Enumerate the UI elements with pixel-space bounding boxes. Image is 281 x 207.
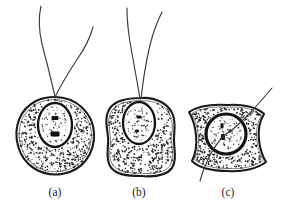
stipple-dot bbox=[54, 124, 55, 125]
stipple-dot bbox=[115, 119, 116, 120]
stipple-dot bbox=[128, 122, 129, 123]
stipple-dot bbox=[60, 170, 61, 171]
stipple-dot bbox=[218, 126, 219, 127]
stipple-dot bbox=[119, 135, 120, 136]
stipple-dot bbox=[57, 128, 58, 129]
stipple-dot bbox=[66, 163, 67, 164]
stipple-dot bbox=[231, 158, 233, 160]
stipple-dot bbox=[151, 165, 153, 167]
stipple-dot bbox=[169, 132, 170, 133]
stipple-dot bbox=[116, 136, 117, 137]
stipple-dot bbox=[86, 148, 87, 149]
stipple-dot bbox=[235, 131, 236, 132]
stipple-dot bbox=[24, 144, 25, 145]
stipple-dot bbox=[167, 147, 169, 149]
stipple-dot bbox=[112, 112, 113, 113]
stipple-dot bbox=[160, 152, 162, 154]
stipple-dot bbox=[75, 130, 77, 132]
stipple-dot bbox=[235, 125, 236, 126]
stipple-dot bbox=[240, 130, 241, 131]
stipple-dot bbox=[158, 157, 159, 158]
stipple-dot bbox=[210, 130, 211, 131]
stipple-dot bbox=[246, 122, 247, 123]
stipple-dot bbox=[24, 146, 25, 147]
stipple-dot bbox=[241, 130, 242, 131]
stipple-dot bbox=[83, 126, 85, 128]
stipple-dot bbox=[247, 123, 249, 125]
stipple-dot bbox=[171, 126, 172, 127]
stipple-dot bbox=[74, 112, 76, 114]
stipple-dot bbox=[121, 111, 123, 113]
stipple-dot bbox=[77, 126, 78, 127]
stipple-dot bbox=[62, 152, 64, 154]
stipple-dot bbox=[78, 132, 79, 133]
stipple-dot bbox=[210, 110, 211, 111]
stipple-dot bbox=[31, 124, 33, 126]
stipple-dot bbox=[80, 129, 82, 131]
stipple-dot bbox=[134, 163, 135, 164]
stipple-dot bbox=[145, 126, 147, 128]
stipple-dot bbox=[113, 139, 114, 140]
stipple-dot bbox=[205, 117, 206, 118]
stipple-dot bbox=[131, 150, 133, 152]
stipple-dot bbox=[238, 144, 239, 145]
stipple-dot bbox=[52, 138, 53, 139]
stipple-dot bbox=[64, 135, 66, 137]
stipple-dot bbox=[224, 108, 225, 109]
stipple-dot bbox=[154, 167, 156, 169]
stipple-dot bbox=[119, 122, 121, 124]
stipple-dot bbox=[89, 144, 90, 145]
stipple-dot bbox=[60, 152, 61, 153]
stipple-dot bbox=[138, 156, 140, 158]
stipple-dot bbox=[226, 164, 228, 166]
stipple-dot bbox=[21, 135, 22, 136]
stipple-dot bbox=[201, 153, 202, 154]
stipple-dot bbox=[134, 132, 135, 133]
stipple-dot bbox=[250, 139, 252, 141]
stipple-dot bbox=[167, 153, 169, 155]
stipple-dot bbox=[134, 136, 135, 137]
stipple-dot bbox=[244, 112, 245, 113]
stipple-dot bbox=[52, 164, 53, 165]
stipple-dot bbox=[208, 117, 209, 118]
stipple-dot bbox=[68, 154, 70, 156]
stipple-dot bbox=[208, 163, 210, 165]
stipple-dot bbox=[247, 117, 248, 118]
stipple-dot bbox=[223, 120, 224, 121]
stipple-dot bbox=[252, 111, 254, 113]
stipple-dot bbox=[38, 163, 39, 164]
stipple-dot bbox=[138, 110, 139, 111]
stipple-dot bbox=[160, 129, 162, 131]
stipple-dot bbox=[74, 133, 75, 134]
stipple-dot bbox=[142, 125, 144, 127]
stipple-dot bbox=[201, 125, 202, 126]
stipple-dot bbox=[160, 140, 161, 141]
stipple-dot bbox=[203, 152, 205, 154]
stipple-dot bbox=[169, 151, 170, 152]
stipple-dot bbox=[166, 122, 167, 123]
stipple-dot bbox=[145, 130, 146, 131]
stipple-dot bbox=[141, 118, 142, 119]
stipple-dot bbox=[252, 152, 253, 153]
stipple-dot bbox=[83, 131, 85, 133]
stipple-dot bbox=[158, 160, 159, 161]
stipple-dot bbox=[200, 148, 202, 150]
stipple-dot bbox=[211, 164, 213, 166]
stipple-dot bbox=[86, 126, 88, 128]
stipple-dot bbox=[89, 141, 90, 142]
stipple-dot bbox=[208, 148, 209, 149]
stipple-dot bbox=[254, 118, 256, 120]
stipple-dot bbox=[29, 158, 30, 159]
stipple-dot bbox=[29, 143, 31, 145]
stipple-dot bbox=[87, 146, 88, 147]
stipple-dot bbox=[33, 153, 34, 154]
stipple-dot bbox=[43, 130, 44, 131]
stipple-dot bbox=[27, 125, 28, 126]
stipple-dot bbox=[80, 159, 81, 160]
stipple-dot bbox=[134, 148, 136, 150]
stipple-dot bbox=[199, 135, 200, 136]
stipple-dot bbox=[33, 109, 35, 111]
stipple-dot bbox=[138, 120, 139, 121]
stipple-dot bbox=[29, 116, 31, 118]
stipple-dot bbox=[234, 135, 235, 136]
